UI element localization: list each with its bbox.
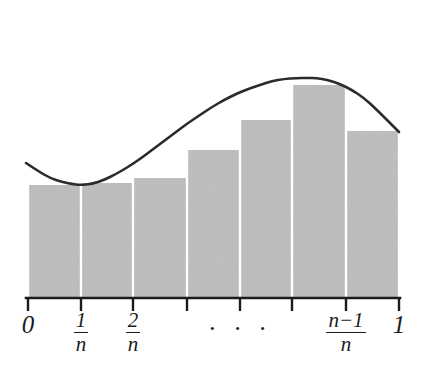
riemann-rectangle xyxy=(82,183,132,298)
riemann-rectangle xyxy=(134,178,186,298)
riemann-rectangle xyxy=(293,85,345,298)
label-ellipsis: · · · xyxy=(180,316,300,342)
riemann-rectangle xyxy=(29,185,80,298)
label-2-over-n-denominator: n xyxy=(126,332,141,355)
riemann-rectangle xyxy=(347,131,398,298)
riemann-sum-figure: 01n2n· · ·n−1n1 xyxy=(0,0,425,375)
riemann-rectangle xyxy=(241,120,291,298)
label-1: 1 xyxy=(339,312,425,337)
label-2-over-n-numerator: 2 xyxy=(126,310,141,332)
label-2-over-n: 2n xyxy=(73,310,193,355)
riemann-rectangle xyxy=(188,150,239,298)
label-2-over-n-fraction: 2n xyxy=(126,310,141,355)
riemann-rectangles xyxy=(29,85,398,298)
